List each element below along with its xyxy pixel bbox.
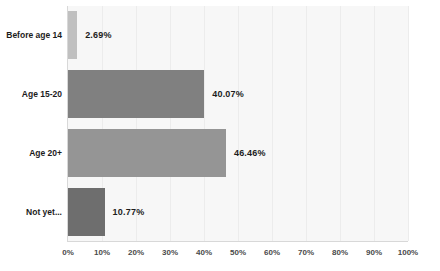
bar[interactable] bbox=[68, 129, 226, 177]
category-label: Age 20+ bbox=[0, 148, 62, 158]
category-label: Age 15-20 bbox=[0, 89, 62, 99]
x-tick-label: 40% bbox=[196, 248, 212, 257]
bar-value-label: 2.69% bbox=[85, 30, 112, 40]
bar-row: 46.46% bbox=[68, 129, 408, 177]
bar[interactable] bbox=[68, 70, 204, 118]
x-tick-label: 20% bbox=[128, 248, 144, 257]
x-tick-label: 90% bbox=[366, 248, 382, 257]
x-tick-label: 30% bbox=[162, 248, 178, 257]
bar[interactable] bbox=[68, 11, 77, 59]
x-tick-label: 10% bbox=[94, 248, 110, 257]
bar-value-label: 46.46% bbox=[234, 148, 266, 158]
bar-row: 40.07% bbox=[68, 70, 408, 118]
x-tick-label: 50% bbox=[230, 248, 246, 257]
x-axis-line bbox=[68, 241, 408, 242]
x-tick-label: 60% bbox=[264, 248, 280, 257]
bar-value-label: 40.07% bbox=[212, 89, 244, 99]
category-label: Before age 14 bbox=[0, 30, 62, 40]
x-tick-label: 0% bbox=[62, 248, 74, 257]
bar-row: 2.69% bbox=[68, 11, 408, 59]
gridline bbox=[408, 6, 409, 241]
bar-value-label: 10.77% bbox=[113, 207, 145, 217]
x-tick-label: 80% bbox=[332, 248, 348, 257]
x-tick-label: 70% bbox=[298, 248, 314, 257]
category-label: Not yet... bbox=[0, 207, 62, 217]
x-tick-label: 100% bbox=[398, 248, 418, 257]
bar[interactable] bbox=[68, 188, 105, 236]
bar-row: 10.77% bbox=[68, 188, 408, 236]
bar-chart: 2.69%40.07%46.46%10.77% Before age 14Age… bbox=[0, 0, 440, 271]
